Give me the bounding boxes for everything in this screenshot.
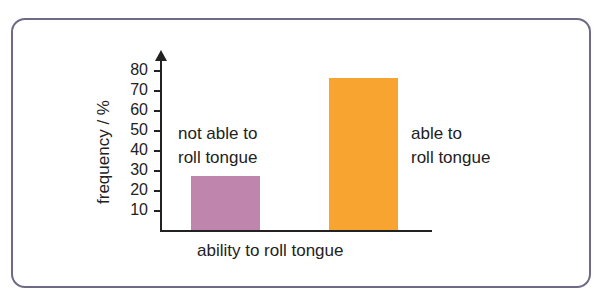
y-tick-label: 70: [118, 82, 148, 98]
x-axis-label: ability to roll tongue: [197, 241, 343, 261]
y-tick-label: 30: [118, 162, 148, 178]
bar-label-line: able to: [411, 122, 490, 146]
bar-label-line: roll tongue: [411, 146, 490, 170]
y-tick-label: 40: [118, 142, 148, 158]
y-tick-label: 20: [118, 182, 148, 198]
y-tick-label: 80: [118, 62, 148, 78]
y-tick: [154, 190, 161, 192]
bar-label-able: able to roll tongue: [411, 122, 490, 170]
bar-not-able: [191, 176, 260, 230]
bar-label-not-able: not able to roll tongue: [178, 122, 257, 170]
y-axis: [160, 58, 162, 232]
y-tick: [154, 170, 161, 172]
bar-label-line: not able to: [178, 122, 257, 146]
bar-label-line: roll tongue: [178, 146, 257, 170]
y-tick: [154, 90, 161, 92]
y-tick-label: 50: [118, 122, 148, 138]
y-tick: [154, 210, 161, 212]
x-axis: [160, 230, 432, 232]
y-tick-label: 10: [118, 202, 148, 218]
bar-able: [329, 78, 398, 230]
y-axis-label: frequency / %: [94, 100, 114, 204]
y-tick: [154, 110, 161, 112]
y-tick: [154, 130, 161, 132]
y-tick-label: 60: [118, 102, 148, 118]
y-tick: [154, 70, 161, 72]
y-tick: [154, 150, 161, 152]
